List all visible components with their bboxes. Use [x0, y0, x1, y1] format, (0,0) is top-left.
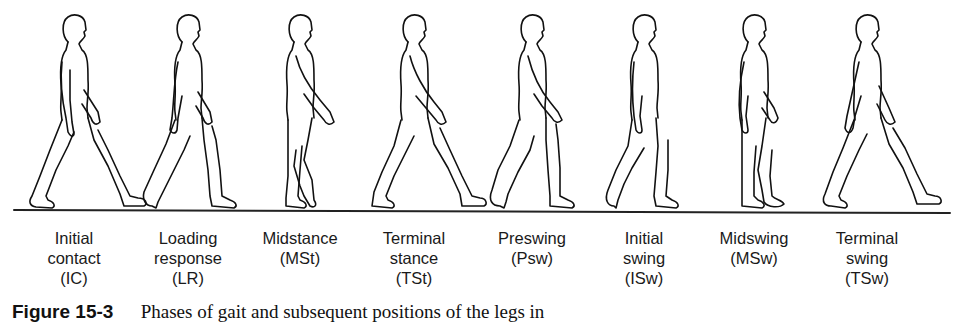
- caption-text: Phases of gait and subsequent positions …: [141, 301, 545, 322]
- figure-caption: Figure 15-3 Phases of gait and subsequen…: [12, 300, 544, 324]
- figure-preswing: [490, 15, 574, 208]
- figure-initial-swing: [606, 15, 678, 208]
- figure-loading-response: [143, 15, 236, 208]
- figure-initial-contact: [30, 15, 146, 208]
- figure-midswing: [739, 15, 784, 208]
- figure-terminal-swing: [823, 15, 941, 208]
- phase-labels: Initial contact (IC) Loading response (L…: [0, 228, 962, 298]
- figure-number: Figure 15-3: [12, 301, 113, 322]
- figure-midstance: [286, 15, 334, 208]
- label-terminal-swing: Terminal swing (TSw): [807, 228, 927, 288]
- figure-terminal-stance: [372, 15, 486, 208]
- label-terminal-stance: Terminal stance (TSt): [354, 228, 474, 288]
- label-midswing: Midswing (MSw): [694, 228, 814, 268]
- walking-figures-illustration: [0, 0, 962, 230]
- label-midstance: Midstance (MSt): [240, 228, 360, 268]
- ground-line: [14, 210, 950, 213]
- label-initial-swing: Initial swing (ISw): [584, 228, 704, 288]
- label-loading-response: Loading response (LR): [128, 228, 248, 288]
- label-initial-contact: Initial contact (IC): [14, 228, 134, 288]
- label-preswing: Preswing (Psw): [472, 228, 592, 268]
